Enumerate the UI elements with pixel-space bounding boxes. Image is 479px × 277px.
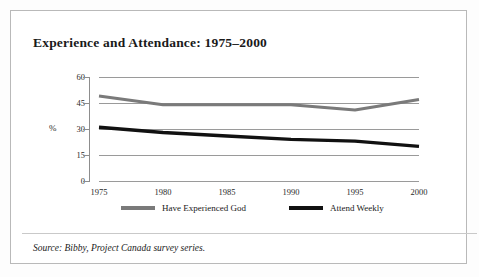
figure-frame: Experience and Attendance: 1975–2000 % 6… [10, 10, 467, 264]
plot-area [99, 77, 419, 181]
series-line [99, 96, 419, 110]
legend-label: Have Experienced God [162, 203, 246, 213]
chart-legend: Have Experienced GodAttend Weekly [99, 203, 419, 219]
source-divider [22, 233, 477, 234]
y-axis-tick [83, 103, 90, 104]
x-axis-tick-labels: 197519801985199019952000 [99, 187, 419, 199]
x-axis-tick-label: 2000 [411, 187, 428, 197]
legend-item[interactable]: Have Experienced God [121, 203, 246, 213]
legend-swatch [289, 206, 323, 211]
y-axis-tick-labels: 604530150 [65, 77, 85, 181]
legend-item[interactable]: Attend Weekly [289, 203, 384, 213]
gridline [99, 181, 419, 182]
x-axis-tick-label: 1990 [283, 187, 300, 197]
series-lines [99, 77, 419, 181]
source-note: Source: Bibby, Project Canada survey ser… [33, 243, 205, 253]
chart-title: Experience and Attendance: 1975–2000 [33, 35, 267, 51]
legend-label: Attend Weekly [330, 203, 384, 213]
x-axis-tick-label: 1980 [155, 187, 172, 197]
figure-page: Experience and Attendance: 1975–2000 % 6… [0, 0, 479, 277]
x-axis-tick-label: 1995 [347, 187, 364, 197]
y-axis-tick [83, 181, 90, 182]
x-axis-tick-label: 1975 [91, 187, 108, 197]
series-line [99, 127, 419, 146]
y-axis-tick [83, 129, 90, 130]
y-axis-title: % [49, 123, 57, 133]
y-axis-tick [83, 155, 90, 156]
y-axis-tick [83, 77, 90, 78]
legend-swatch [121, 206, 155, 210]
x-axis-tick-label: 1985 [219, 187, 236, 197]
